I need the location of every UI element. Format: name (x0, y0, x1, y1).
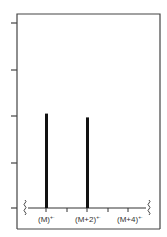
y-ticks (11, 23, 17, 208)
axis-break-left-icon (24, 200, 26, 215)
bar-m-plus-2 (86, 117, 89, 208)
axis-break-right-icon (148, 200, 150, 215)
x-label-m: (M)+· (38, 214, 55, 224)
x-label-m-plus-4: (M+4)+· (117, 214, 143, 224)
x-ticks (46, 208, 128, 212)
bar-m (45, 114, 48, 208)
isotope-chart: (M)+· (M+2)+· (M+4)+· (0, 0, 167, 237)
x-label-m-plus-2: (M+2)+· (75, 214, 101, 224)
